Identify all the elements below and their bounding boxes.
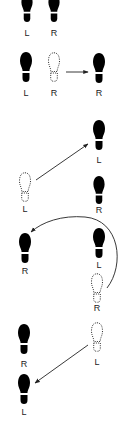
arrow-diagonal-down-icon (35, 345, 88, 383)
arrow-curved-icon (31, 217, 117, 288)
arrow-diagonal-up-icon (36, 144, 88, 180)
arrows-layer (0, 0, 125, 442)
